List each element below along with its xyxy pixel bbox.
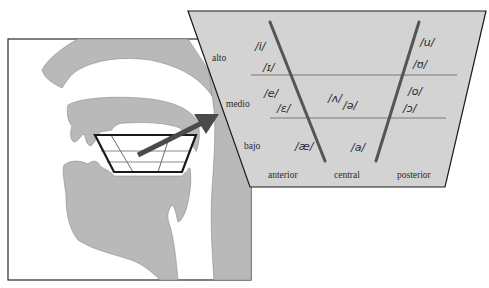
vowel-ae: /æ/	[294, 140, 315, 153]
vowel-o: /o/	[407, 85, 423, 98]
vowel-i: /i/	[254, 40, 267, 53]
vowel-diagram: alto medio bajo anterior central posteri…	[0, 0, 489, 288]
vowel-schwa: /ə/	[342, 99, 358, 112]
vowel-open-e: /ɛ/	[276, 102, 292, 115]
height-label-high: alto	[212, 53, 226, 63]
vowel-u: /u/	[419, 36, 436, 49]
height-label-low: bajo	[244, 141, 261, 151]
vowel-a: /a/	[350, 141, 366, 154]
backness-label-back: posterior	[397, 170, 432, 180]
vowel-turned-v: /ʌ/	[327, 92, 343, 105]
vowel-e: /e/	[263, 87, 279, 100]
vowel-small-cap-i: /ɪ/	[262, 61, 276, 74]
backness-label-front: anterior	[268, 170, 298, 180]
vowel-open-o: /ɔ/	[402, 102, 418, 115]
height-label-mid: medio	[226, 99, 250, 109]
backness-label-central: central	[334, 170, 360, 180]
vowel-upsilon: /ʊ/	[412, 58, 429, 71]
